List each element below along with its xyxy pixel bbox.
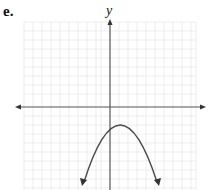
y-axis (108, 19, 113, 190)
x-axis-left-arrow-icon (15, 105, 21, 110)
x-axis-right-arrow-icon (200, 105, 206, 110)
graph (0, 0, 208, 190)
